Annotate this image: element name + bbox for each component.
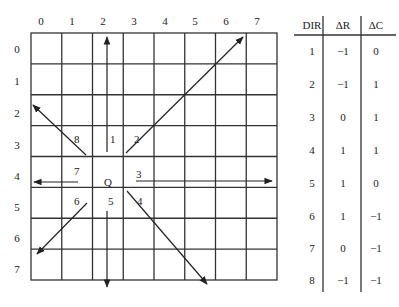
table-cell: −1 [358,210,394,222]
table-cell: 1 [358,111,394,123]
table-cell: 1 [325,144,361,156]
direction-label-2: 2 [134,133,140,145]
direction-label-8: 8 [74,133,80,145]
direction-label-7: 7 [74,165,80,177]
table-cell: 0 [358,177,394,189]
direction-label-1: 1 [110,133,116,145]
grid-lines [31,33,277,280]
table-cell: −1 [325,78,361,90]
table-header-dr: ΔR [325,19,361,31]
table-cell: 1 [358,78,394,90]
direction-label-3: 3 [136,168,142,180]
table-cell: 1 [325,210,361,222]
table-cell: −1 [358,274,394,286]
direction-label-6: 6 [74,195,80,207]
table-cell: −1 [325,45,361,57]
table-cell: 1 [325,177,361,189]
direction-label-4: 4 [137,195,143,207]
table-cell: 0 [325,111,361,123]
origin-label-q: Q [104,176,112,188]
arrow-dir-8 [33,105,86,155]
table-cell: 0 [325,242,361,254]
table-cell: −1 [358,242,394,254]
table-cell: −1 [325,274,361,286]
table-header-dc: ΔC [358,19,394,31]
table-cell: 0 [358,45,394,57]
table-cell: 1 [358,144,394,156]
direction-label-5: 5 [108,195,114,207]
